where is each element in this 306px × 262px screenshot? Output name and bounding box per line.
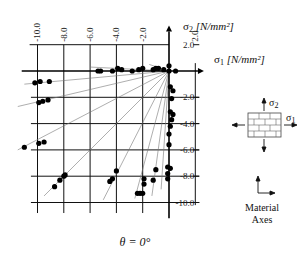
data-point [40, 99, 45, 104]
data-point [166, 63, 171, 68]
data-point [166, 142, 171, 147]
data-point [38, 79, 43, 84]
y-tick-label: -8.0 [180, 171, 195, 181]
material-axes-legend: σ2 σ1 Material Axes [232, 97, 297, 225]
data-point [141, 176, 146, 181]
data-point [36, 141, 41, 146]
y-axis-label: σ2 [N/mm²] [183, 20, 234, 34]
data-point [173, 68, 178, 73]
data-point [136, 67, 141, 72]
data-point [151, 67, 156, 72]
data-point [141, 181, 146, 186]
data-point [166, 132, 171, 137]
x-tick-label: -4.0 [111, 27, 121, 42]
legend-sigma2-label: σ2 [269, 97, 278, 110]
data-point [57, 178, 62, 183]
data-point [165, 176, 170, 181]
data-point [110, 68, 115, 73]
data-point [41, 139, 46, 144]
x-axis-arrow-icon [198, 68, 204, 74]
data-point [95, 68, 100, 73]
data-point [168, 84, 173, 89]
x-tick-label: -6.0 [85, 27, 95, 42]
data-point [45, 97, 50, 102]
x-tick-label: -2.0 [138, 27, 148, 42]
data-point [169, 117, 174, 122]
data-point [115, 66, 120, 71]
y-axis-arrow-icon [166, 26, 172, 32]
axes [22, 26, 204, 219]
data-point [22, 145, 27, 150]
x-axis-label: σ1 [N/mm²] [214, 53, 265, 67]
legend-caption-line1: Material [245, 202, 279, 213]
data-point [151, 178, 156, 183]
y-tick-label: -4.0 [180, 119, 195, 129]
data-point [168, 109, 173, 114]
y-tick-label: 2.0 [183, 40, 195, 50]
material-axes-icon [256, 176, 275, 195]
biaxial-strength-chart: -10.0-8.0-6.0-4.0-2.02.02.0-2.0-4.0-6.0-… [0, 0, 306, 262]
data-point [169, 96, 174, 101]
data-point [52, 184, 57, 189]
data-point [114, 168, 119, 173]
masonry-block-icon [248, 113, 281, 137]
data-point [140, 191, 145, 196]
y-tick-label: -2.0 [180, 92, 195, 102]
data-point [130, 68, 135, 73]
data-point [166, 68, 171, 73]
data-point [63, 172, 68, 177]
data-point [165, 171, 170, 176]
x-tick-label: -10.0 [33, 22, 43, 41]
x-tick-label: -8.0 [59, 27, 69, 42]
data-point [47, 79, 52, 84]
y-tick-label: -6.0 [180, 145, 195, 155]
data-point [168, 124, 173, 129]
chart-title: θ = 0° [120, 235, 151, 249]
data-point [168, 166, 173, 171]
data-point [32, 80, 37, 85]
data-point [161, 67, 166, 72]
y-tick-label: -10.0 [176, 198, 195, 208]
legend-caption-line2: Axes [252, 214, 273, 225]
data-point [153, 167, 158, 172]
data-point [110, 176, 115, 181]
legend-sigma1-label: σ1 [286, 112, 295, 125]
